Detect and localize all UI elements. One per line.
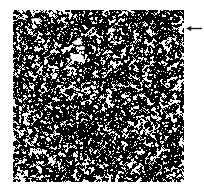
- speckle-noise-panel: [13, 10, 184, 182]
- speckle-noise-canvas: [13, 10, 184, 182]
- left-arrow-annotation-icon: [186, 22, 203, 35]
- figure-root: [0, 0, 204, 192]
